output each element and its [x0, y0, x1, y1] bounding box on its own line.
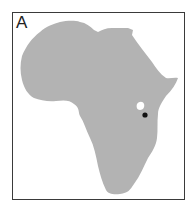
panel-label: A [16, 14, 27, 31]
africa-landmass [21, 21, 179, 195]
location-marker [142, 112, 147, 117]
africa-map [0, 0, 196, 209]
